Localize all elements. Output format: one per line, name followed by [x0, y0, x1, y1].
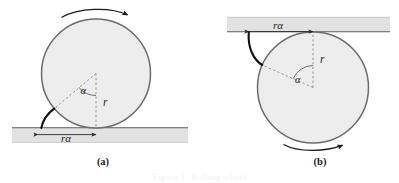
panel-a-arc-length-label: rα	[61, 132, 71, 144]
panel-b-arc-length-label: rα	[273, 19, 283, 31]
panel-b-caption: (b)	[314, 156, 327, 168]
panel-a-angle-label: α	[81, 85, 87, 96]
panel-a: r α rα (a)	[12, 9, 188, 168]
figure-container: r α rα (a)	[0, 0, 399, 183]
panel-a-caption: (a)	[97, 156, 110, 168]
panel-a-radius-label: r	[103, 96, 108, 108]
panel-b-surface	[227, 17, 390, 32]
panel-b-rotation-arrow	[284, 145, 343, 151]
rolling-wheel-figure: r α rα (a)	[0, 0, 399, 183]
panel-b-angle-label: α	[295, 74, 301, 85]
panel-b-radius-label: r	[320, 53, 325, 65]
panel-b: r α rα (b)	[227, 17, 390, 168]
panel-a-traced-curve	[41, 109, 54, 128]
panel-a-rotation-arrow	[62, 9, 128, 17]
panel-b-traced-curve	[249, 32, 263, 65]
panel-b-surface-fill	[227, 17, 390, 32]
figure-caption-partial: Figure 1. Rolling wheel	[0, 171, 399, 183]
